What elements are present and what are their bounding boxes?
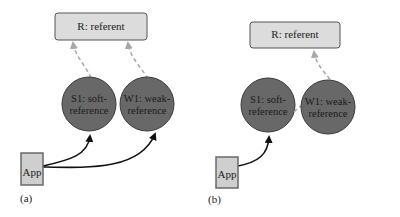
panel-a: R: referent S1: soft- reference W1: weak… bbox=[20, 13, 174, 205]
weak-reference-label-line1: W1: weak- bbox=[124, 93, 171, 104]
weak-reference-label-line2: reference bbox=[308, 108, 347, 119]
weak-reference-node: W1: weak- reference bbox=[120, 77, 174, 131]
edge-app-to-s1 bbox=[43, 136, 90, 166]
app-box: App bbox=[21, 153, 43, 185]
panel-label-a: (a) bbox=[20, 192, 33, 205]
app-box: App bbox=[216, 157, 238, 188]
edge-w1-to-referent bbox=[128, 43, 148, 79]
referent-box: R: referent bbox=[55, 13, 147, 40]
referent-label: R: referent bbox=[271, 28, 318, 40]
soft-reference-label-line2: reference bbox=[248, 106, 287, 117]
soft-reference-label-line2: reference bbox=[69, 105, 108, 116]
soft-reference-label-line1: S1: soft- bbox=[71, 93, 107, 104]
app-label: App bbox=[218, 168, 237, 180]
soft-reference-node: S1: soft- reference bbox=[241, 78, 295, 132]
soft-reference-label-line1: S1: soft- bbox=[250, 94, 286, 105]
weak-reference-label-line1: W1: weak- bbox=[305, 96, 352, 107]
weak-reference-label-line2: reference bbox=[127, 105, 166, 116]
soft-reference-node: S1: soft- reference bbox=[62, 77, 116, 131]
diagram-canvas: R: referent S1: soft- reference W1: weak… bbox=[0, 0, 400, 217]
edge-s1-to-referent bbox=[73, 43, 91, 78]
weak-reference-node: W1: weak- reference bbox=[301, 80, 355, 134]
panel-label-b: (b) bbox=[208, 193, 221, 206]
edge-app-to-s1 bbox=[238, 137, 269, 166]
panel-b: R: referent S1: soft- reference W1: weak… bbox=[208, 22, 355, 206]
referent-box: R: referent bbox=[250, 22, 340, 48]
app-label: App bbox=[23, 166, 42, 178]
referent-label: R: referent bbox=[77, 20, 124, 32]
